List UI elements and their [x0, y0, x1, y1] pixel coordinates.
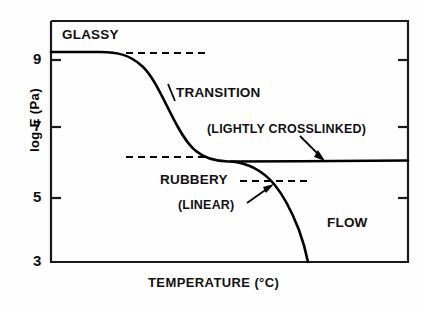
ytick-label-5: 5 — [33, 188, 42, 205]
modulus-temperature-chart — [0, 0, 424, 310]
y-axis-ticks-left — [51, 60, 61, 198]
annotation-transition: TRANSITION — [176, 85, 261, 100]
arrow-linear — [247, 184, 274, 203]
y-axis-ticks-right — [398, 60, 408, 198]
x-axis-title: TEMPERATURE (°C) — [148, 275, 279, 290]
annotation-rubbery: RUBBERY — [160, 172, 228, 187]
arrow-lightly-crosslinked — [300, 136, 325, 161]
curve-lightly-crosslinked — [51, 52, 408, 162]
annotation-lightly-crosslinked: (LIGHTLY CROSSLINKED) — [207, 122, 366, 136]
annotation-glassy: GLASSY — [62, 27, 119, 42]
figure-container: 9 7 5 3 log E (Pa) TEMPERATURE (°C) GLAS… — [0, 0, 424, 310]
ytick-label-3: 3 — [33, 252, 42, 269]
annotation-linear: (LINEAR) — [178, 198, 234, 212]
transition-leader-line — [168, 84, 175, 101]
annotation-flow: FLOW — [327, 215, 368, 230]
arrow-head-linear — [263, 184, 274, 193]
y-axis-title-wrapper: log E (Pa) — [25, 65, 45, 175]
curve-linear-flow — [231, 162, 308, 263]
y-axis-title: log E (Pa) — [27, 88, 42, 152]
